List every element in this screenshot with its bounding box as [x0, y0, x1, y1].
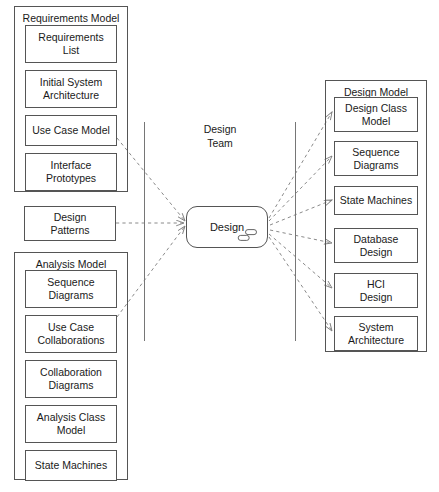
node-design-class-model[interactable]: Design Class Model — [334, 97, 418, 132]
lane-divider-right — [295, 122, 296, 341]
edge-design-to-system-architecture — [269, 237, 332, 331]
node-use-case-collaborations[interactable]: Use Case Collaborations — [25, 315, 117, 353]
edge-design-to-database-design — [270, 230, 332, 243]
edge-design-to-sequence-diagrams — [269, 156, 332, 221]
package-title-requirements-model: Requirements Model — [15, 12, 127, 25]
node-system-architecture[interactable]: System Architecture — [334, 316, 418, 351]
node-hci-design[interactable]: HCI Design — [334, 273, 418, 308]
node-analysis-sequence-diagrams[interactable]: Sequence Diagrams — [25, 270, 117, 308]
node-interface-prototypes[interactable]: Interface Prototypes — [25, 153, 117, 191]
uml-activity-diagram: Requirements Model Requirements List Ini… — [0, 0, 439, 492]
lane-label-design-team: Design Team — [170, 123, 270, 150]
lane-divider-left — [144, 122, 145, 341]
node-initial-system-architecture[interactable]: Initial System Architecture — [25, 70, 117, 108]
edge-design-to-hci-design — [269, 234, 332, 288]
activity-design[interactable]: Design — [186, 206, 268, 248]
node-database-design[interactable]: Database Design — [334, 228, 418, 263]
edge-design-to-state-machines — [270, 200, 332, 225]
node-design-patterns[interactable]: Design Patterns — [24, 206, 116, 241]
node-requirements-list[interactable]: Requirements List — [25, 25, 117, 63]
node-design-sequence-diagrams[interactable]: Sequence Diagrams — [334, 141, 418, 176]
edge-design-to-design-class-model — [269, 112, 332, 218]
node-use-case-model[interactable]: Use Case Model — [25, 115, 117, 146]
node-design-state-machines[interactable]: State Machines — [334, 186, 418, 215]
node-analysis-state-machines[interactable]: State Machines — [25, 450, 117, 481]
subactivity-rake-icon — [237, 229, 259, 242]
node-analysis-class-model[interactable]: Analysis Class Model — [25, 405, 117, 443]
node-collaboration-diagrams[interactable]: Collaboration Diagrams — [25, 360, 117, 398]
